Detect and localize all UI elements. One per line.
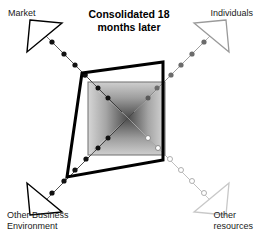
inner-tick-other-resources-b [156,146,161,151]
axis-individuals-tick-3 [189,51,194,56]
inner-tick-individuals-a [146,96,151,101]
radar-chart-canvas [0,0,259,243]
axis-other-business-tick-5 [49,190,54,195]
inner-tick-market-b [96,86,101,91]
inner-tick-individuals-b [155,86,160,91]
axis-label-market: Market [8,8,36,19]
axis-market-tick-2 [72,62,77,67]
radar-diagram: Consolidated 18 months later Market Indi… [0,0,259,243]
inner-tick-other-business-b [96,146,101,151]
axis-other-resources-tick-2 [179,168,184,173]
axis-label-individuals: Individuals [210,8,253,19]
axis-other-business-tick-3 [72,167,77,172]
axis-other-resources-tick-3 [190,179,195,184]
axis-individuals-tick-4 [201,39,206,44]
axis-other-resources-tick-1 [168,157,173,162]
inner-tick-other-resources-a [146,136,151,141]
axis-individuals-tick-1 [168,72,173,77]
inner-tick-market-a [106,96,111,101]
axis-label-other-resources: Other resources [213,210,253,231]
axis-other-business-tick-2 [83,156,88,161]
axis-other-resources-tick-4 [202,191,207,196]
inner-tick-other-business-a [106,136,111,141]
axis-other-business-tick-4 [61,178,66,183]
axis-market-tick-3 [61,51,66,56]
axis-label-other-business-environment: Other Business Environment [7,210,69,231]
page-title: Consolidated 18 months later [70,8,188,33]
axis-individuals-tick-2 [178,62,183,67]
axis-market-tick-4 [49,39,54,44]
